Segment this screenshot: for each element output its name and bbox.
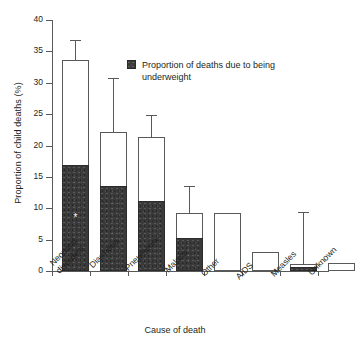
y-tick-25: 25 xyxy=(46,114,52,115)
error-bar-cap-upper-pneumonia xyxy=(146,115,157,116)
error-bar-line-measles xyxy=(303,213,304,267)
y-tick-label-25: 25 xyxy=(34,108,43,118)
error-bar-cap-upper-diarrhoea xyxy=(108,78,119,79)
y-tick-label-10: 10 xyxy=(34,202,43,212)
y-tick-20: 20 xyxy=(46,146,52,147)
y-tick-40: 40 xyxy=(46,20,52,21)
y-axis-label: Proportion of child deaths (%) xyxy=(13,33,23,253)
y-tick-label-15: 15 xyxy=(34,171,43,181)
y-tick-label-30: 30 xyxy=(34,77,43,87)
y-tick-35: 35 xyxy=(46,51,52,52)
error-bar-cap-upper-measles xyxy=(298,212,309,213)
bar-total-unknown xyxy=(328,263,355,271)
y-tick-label-20: 20 xyxy=(34,140,43,150)
bar-group-neonatal-disorders[interactable]: * xyxy=(62,20,89,271)
y-tick-10: 10 xyxy=(46,208,52,209)
bar-group-other[interactable] xyxy=(214,20,241,271)
x-axis-line xyxy=(52,271,329,272)
bar-group-malaria[interactable] xyxy=(176,20,203,271)
y-tick-30: 30 xyxy=(46,83,52,84)
asterisk-marker: * xyxy=(74,213,78,223)
y-tick-label-5: 5 xyxy=(38,234,43,244)
y-tick-5: 5 xyxy=(46,240,52,241)
x-axis-label: Cause of death xyxy=(60,325,290,335)
bar-group-aids[interactable] xyxy=(252,20,279,271)
bar-group-unknown[interactable] xyxy=(328,20,355,271)
error-bar-cap-upper-neonatal-disorders xyxy=(70,40,81,41)
bar-group-pneumonia[interactable] xyxy=(138,20,165,271)
y-tick-label-40: 40 xyxy=(34,14,43,24)
y-tick-label-35: 35 xyxy=(34,45,43,55)
legend-swatch-underweight xyxy=(127,60,136,69)
y-tick-15: 15 xyxy=(46,177,52,178)
chart-legend: Proportion of deaths due to being underw… xyxy=(127,59,292,83)
plot-area: 40 35 30 25 20 15 10 5 0 xyxy=(52,20,328,271)
bar-group-measles[interactable] xyxy=(290,20,317,271)
legend-label-underweight: Proportion of deaths due to being underw… xyxy=(142,59,292,83)
error-bar-cap-upper-malaria xyxy=(184,186,195,187)
bar-group-diarrhoea[interactable] xyxy=(100,20,127,271)
